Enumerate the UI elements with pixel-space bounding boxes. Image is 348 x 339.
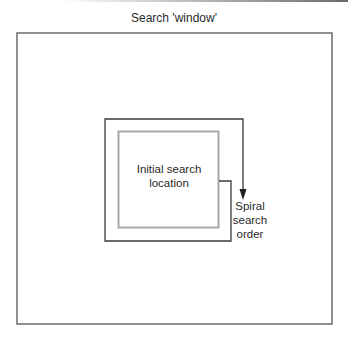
initial-label-line-2: location [128, 176, 210, 190]
spiral-label-line-2: search [228, 213, 272, 227]
initial-label-line-1: Initial search [128, 162, 210, 176]
initial-search-location-label: Initial search location [128, 162, 210, 190]
spiral-label-line-3: order [228, 227, 272, 241]
spiral-search-order-label: Spiral search order [228, 199, 272, 241]
spiral-label-line-1: Spiral [228, 199, 272, 213]
